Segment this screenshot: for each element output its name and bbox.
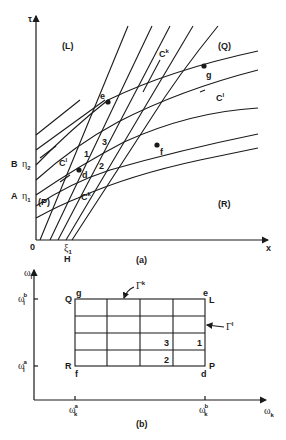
cell-2-label: 2 xyxy=(99,161,104,171)
point-d-label: d xyxy=(82,170,88,180)
corner-e-label: e xyxy=(203,288,208,298)
corner-g-label: g xyxy=(76,288,82,298)
cell-3-label: 3 xyxy=(164,338,169,348)
figure-b-caption: (b) xyxy=(136,419,148,429)
gamma-k-pointer xyxy=(124,287,134,298)
corner-p-label: P xyxy=(209,361,215,371)
corner-l-label: L xyxy=(209,295,215,305)
origin-label: 0 xyxy=(30,242,35,252)
cell-2-label: 2 xyxy=(164,355,169,365)
ck-characteristics xyxy=(40,26,218,240)
corner-q-label: Q xyxy=(65,294,72,304)
region-p-label: (P) xyxy=(38,197,50,207)
tick-eta1-label: η1 xyxy=(22,190,31,203)
omega-l-axis-label: ωl xyxy=(24,267,33,280)
ck-top-label: Ck xyxy=(159,48,170,59)
point-e-marker xyxy=(105,99,110,104)
tick-eta2-label: η2 xyxy=(22,158,31,171)
tick-omega-k-b: ωbk xyxy=(199,403,209,417)
tick-omega-k-a: ωak xyxy=(69,403,79,417)
cell-1-label: 1 xyxy=(84,149,89,159)
cl-right-label: Cl xyxy=(216,92,225,103)
point-d-marker xyxy=(76,167,81,172)
corner-f-label: f xyxy=(75,369,79,379)
tick-omega-l-b: ωbl xyxy=(18,292,28,306)
tau-axis-label: τ xyxy=(28,14,32,24)
point-e-label: e xyxy=(100,91,105,101)
tick-b-label: B xyxy=(11,159,18,169)
corner-r-label: R xyxy=(65,361,72,371)
omega-k-axis-label: ωk xyxy=(264,405,275,418)
cell-1-label: 1 xyxy=(197,338,202,348)
point-f-marker xyxy=(154,142,159,147)
gamma-l-pointer xyxy=(207,325,224,327)
region-l-label: (L) xyxy=(62,41,74,51)
omega-grid xyxy=(75,299,205,366)
tick-a-label: A xyxy=(11,191,18,201)
figure-a: τ x 0 (L) (Q) (P) (R) Ck Cl Cl Ck e g d … xyxy=(11,14,271,265)
tick-omega-l-a: ωal xyxy=(18,359,28,373)
point-g-label: g xyxy=(206,70,212,80)
region-q-label: (Q) xyxy=(218,41,231,51)
cl-left-label: Cl xyxy=(59,157,68,168)
corner-d-label: d xyxy=(201,369,207,379)
figure-b: ωl ωk ωbl ωal ωak ωbk Q g e L R f d P Γk… xyxy=(18,267,275,429)
figure-a-caption: (a) xyxy=(136,255,147,265)
characteristic-grid-diagram: τ x 0 (L) (Q) (P) (R) Ck Cl Cl Ck e g d … xyxy=(0,0,286,440)
cl-characteristics xyxy=(36,51,258,218)
cell-3-label: 3 xyxy=(102,137,107,147)
point-g-marker xyxy=(201,63,206,68)
region-r-label: (R) xyxy=(218,199,231,209)
tick-h-label: H xyxy=(64,254,71,264)
gamma-l-label: Γl xyxy=(226,321,234,332)
gamma-k-label: Γk xyxy=(136,280,146,291)
x-axis-label: x xyxy=(266,243,271,253)
